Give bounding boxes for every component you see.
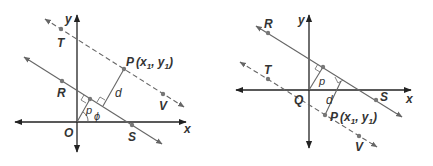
point-r xyxy=(266,31,270,35)
label-s: S xyxy=(128,130,136,144)
origin-label: O xyxy=(64,126,74,140)
svg-text:P(x1, y1): P(x1, y1) xyxy=(126,55,173,71)
label-v: V xyxy=(355,140,364,154)
point-p xyxy=(323,113,327,117)
label-point-p-coords: P(x1, y1) xyxy=(126,55,173,71)
label-r: R xyxy=(264,17,273,31)
point-foot xyxy=(88,97,92,101)
origin-label: Q xyxy=(294,93,304,107)
label-t: T xyxy=(264,63,273,77)
label-d: d xyxy=(326,93,333,107)
x-axis-label: x xyxy=(405,92,414,106)
line-rs xyxy=(24,57,162,144)
label-phi: ϕ xyxy=(94,110,100,122)
label-r: R xyxy=(57,86,66,100)
diagram-canvas: y x O T R S V d p ϕ P(x1, y1) xyxy=(0,0,433,166)
label-d: d xyxy=(115,86,122,100)
point-t xyxy=(59,27,63,31)
left-figure: y x O T R S V d p ϕ P(x1, y1) xyxy=(15,12,192,152)
y-axis-label: y xyxy=(64,12,73,26)
right-figure: y x Q R T S V d p P(x1, y1) xyxy=(236,13,414,154)
label-p: p xyxy=(85,104,92,116)
svg-text:P(x1, y1): P(x1, y1) xyxy=(330,110,377,126)
point-s xyxy=(130,123,134,127)
y-axis-label: y xyxy=(297,13,306,27)
label-s: S xyxy=(380,90,388,104)
right-angle-mark xyxy=(97,97,105,102)
point-t xyxy=(266,77,270,81)
point-s xyxy=(374,98,378,102)
point-v xyxy=(161,92,165,96)
x-axis-label: x xyxy=(183,122,192,136)
point-v xyxy=(357,134,361,138)
point-r xyxy=(60,79,64,83)
label-t: T xyxy=(57,36,66,50)
label-v: V xyxy=(159,99,168,113)
label-point-p-coords: P(x1, y1) xyxy=(330,110,377,126)
label-p: p xyxy=(318,75,325,87)
point-foot xyxy=(321,65,325,69)
